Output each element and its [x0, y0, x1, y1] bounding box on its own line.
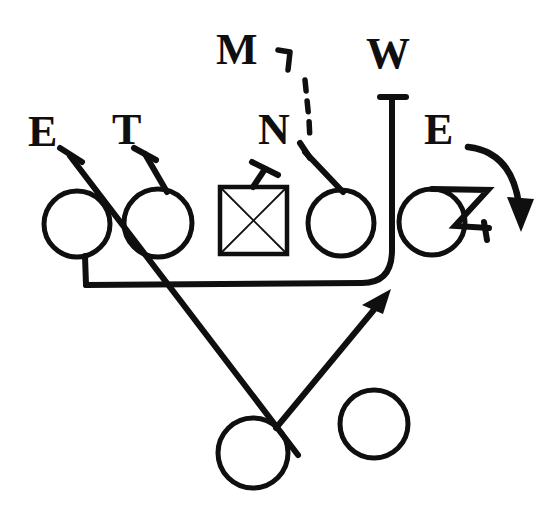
mike-stunt-dashed-path	[305, 80, 310, 140]
play-diagram-canvas	[0, 0, 559, 518]
end-right-arrowhead	[507, 197, 534, 232]
mike-hook-glyph	[278, 50, 290, 70]
back-left-arrowhead	[362, 289, 391, 314]
offensive-lineman-circle	[124, 189, 192, 257]
contain-z-hook-tail	[484, 222, 487, 240]
offensive-lineman-circle	[44, 191, 110, 257]
label-mike-linebacker: M	[216, 28, 258, 72]
offensive-back-circle	[340, 390, 408, 458]
label-defensive-tackle: T	[112, 108, 141, 152]
label-will-linebacker: W	[366, 32, 410, 76]
play-diagram: E T M N W E	[0, 0, 559, 518]
label-nose-tackle: N	[258, 108, 290, 152]
offensive-lineman-circle	[308, 190, 374, 256]
mike-rush-path	[305, 152, 343, 192]
will-blitz-path-end	[85, 256, 86, 285]
end-right-contain-arrow	[468, 147, 519, 205]
nose-rush-path	[253, 169, 265, 187]
back-left-cross-path	[276, 300, 382, 428]
label-defensive-end-left: E	[28, 110, 57, 154]
label-defensive-end-right: E	[424, 108, 453, 152]
